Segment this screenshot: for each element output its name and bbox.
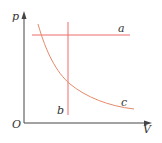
curve-c bbox=[38, 24, 134, 109]
origin-label: O bbox=[12, 118, 21, 131]
y-axis-arrow-icon bbox=[22, 11, 27, 19]
label-c: c bbox=[121, 96, 127, 109]
x-axis-label: V bbox=[143, 123, 152, 136]
pv-diagram: p V O a b c bbox=[0, 0, 162, 143]
label-a: a bbox=[118, 22, 125, 35]
label-b: b bbox=[57, 104, 64, 117]
y-axis-label: p bbox=[12, 10, 19, 23]
